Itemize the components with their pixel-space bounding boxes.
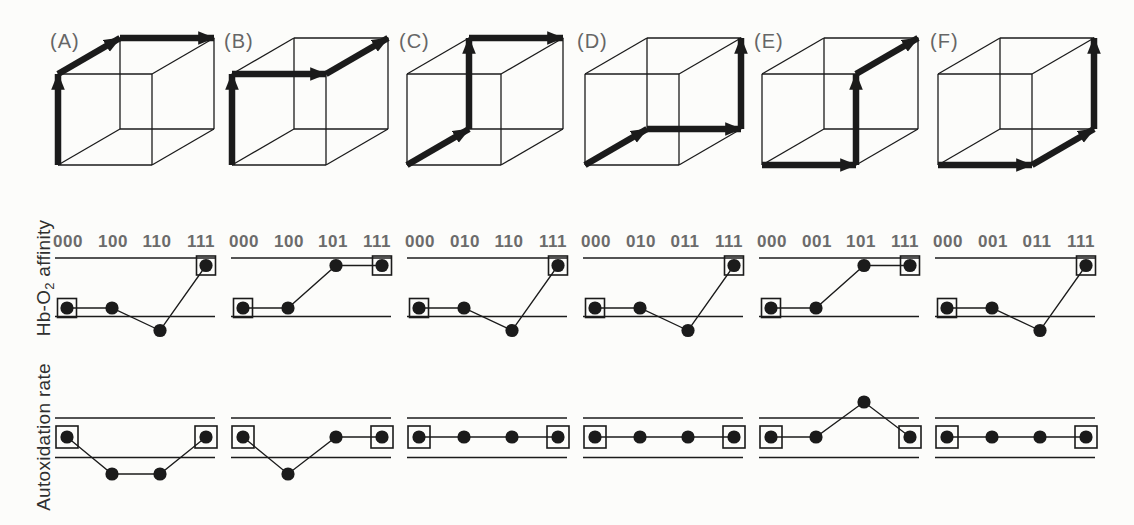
genotype-point-001 [985,301,998,314]
mutation-cube-C [407,38,563,165]
mutation-arrow [585,129,647,165]
genotype-point-011 [1033,430,1046,443]
genotype-point-011 [681,324,694,337]
genotype-point-111 [375,259,388,272]
figure-canvas: Hb-O2 affinity Autoxidation rate (A)0001… [0,0,1134,525]
genotype-point-100 [281,467,294,480]
autoxidation-plot-F [935,418,1097,458]
genotype-point-101 [329,430,342,443]
genotype-point-110 [153,467,166,480]
genotype-point-001 [809,430,822,443]
cube-edge [1032,38,1094,74]
genotype-point-000 [236,430,249,443]
genotype-point-010 [457,301,470,314]
genotype-point-010 [457,430,470,443]
path-connector-line [595,266,734,331]
genotype-point-001 [985,430,998,443]
genotype-point-010 [633,430,646,443]
genotype-point-000 [588,301,601,314]
cube-edge [152,129,214,165]
affinity-plot-D [583,256,744,337]
path-connector-line [419,266,558,331]
genotype-point-101 [857,395,870,408]
genotype-point-000 [236,301,249,314]
genotype-label-C-2: 110 [486,232,532,252]
autoxidation-plot-C [407,418,569,458]
genotype-label-E-1: 001 [794,232,840,252]
cube-edge [856,129,918,165]
autoxidation-plot-B [231,418,393,481]
genotype-point-111 [199,430,212,443]
panel-letter-A: (A) [50,30,80,53]
genotype-label-D-1: 010 [618,232,664,252]
genotype-point-000 [60,301,73,314]
panel-letter-D: (D) [577,30,608,53]
genotype-point-101 [857,259,870,272]
affinity-label-subscript: 2 [42,282,57,290]
autoxidation-label-text: Autoxidation rate [33,363,54,511]
genotype-point-101 [329,259,342,272]
genotype-label-A-1: 100 [90,232,136,252]
autoxidation-plot-E [759,395,921,457]
path-connector-line [67,266,206,331]
genotype-point-000 [412,301,425,314]
genotype-point-100 [105,301,118,314]
genotype-label-E-2: 101 [838,232,884,252]
genotype-label-A-0: 000 [45,232,91,252]
mutation-cube-B [232,38,388,165]
genotype-label-A-3: 111 [178,232,224,252]
mutation-cube-A [58,38,214,165]
genotype-point-001 [809,301,822,314]
y-axis-label-autoxidation: Autoxidation rate [33,363,55,511]
mutation-cube-F [938,38,1094,165]
affinity-plot-B [231,256,392,318]
cube-edge [152,38,214,74]
autoxidation-plot-D [583,418,745,458]
genotype-point-000 [588,430,601,443]
cube-edge [501,129,563,165]
cube-edge [679,38,741,74]
genotype-point-111 [1079,430,1092,443]
genotype-point-111 [903,430,916,443]
genotype-point-111 [199,259,212,272]
cube-edge [326,129,388,165]
affinity-plot-F [935,256,1096,337]
mutation-cube-E [762,38,918,165]
genotype-point-000 [940,301,953,314]
genotype-label-D-2: 011 [662,232,708,252]
genotype-point-100 [281,301,294,314]
path-connector-line [771,402,910,437]
genotype-point-000 [412,430,425,443]
genotype-point-110 [505,324,518,337]
panel-letter-F: (F) [930,30,959,53]
path-connector-line [67,437,206,474]
genotype-label-C-3: 111 [530,232,576,252]
mutation-arrow [407,129,469,165]
genotype-label-F-0: 000 [925,232,971,252]
cube-edge [232,129,294,165]
genotype-label-A-2: 110 [134,232,180,252]
genotype-point-100 [105,467,118,480]
genotype-point-111 [727,259,740,272]
genotype-point-111 [727,430,740,443]
figure-graphics [0,0,1134,525]
genotype-point-011 [681,430,694,443]
panel-letter-C: (C) [399,30,430,53]
path-connector-line [771,266,910,309]
affinity-plot-E [759,256,920,318]
cube-edge [679,129,741,165]
autoxidation-plot-A [55,418,217,481]
genotype-point-111 [551,430,564,443]
mutation-arrow [856,38,918,74]
genotype-point-000 [60,430,73,443]
genotype-point-000 [764,430,777,443]
panel-letter-E: (E) [754,30,784,53]
genotype-point-000 [940,430,953,443]
genotype-label-E-0: 000 [749,232,795,252]
genotype-label-B-1: 100 [266,232,312,252]
cube-edge [938,129,1000,165]
genotype-label-D-0: 000 [573,232,619,252]
affinity-label-text: Hb-O [33,290,54,337]
genotype-point-111 [551,259,564,272]
genotype-point-110 [505,430,518,443]
